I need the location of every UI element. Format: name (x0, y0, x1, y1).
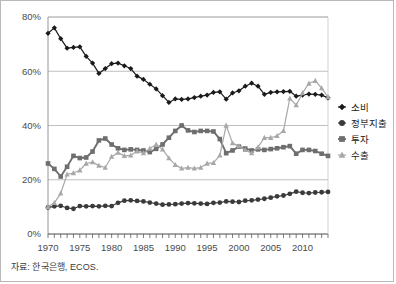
data-point (313, 190, 318, 195)
series-1 (46, 189, 331, 211)
x-tick-label-1990: 1990 (165, 242, 186, 253)
x-tick-label-1980: 1980 (101, 242, 122, 253)
x-tick-label-1970: 1970 (37, 242, 58, 253)
data-point (84, 204, 89, 209)
data-point (262, 148, 267, 153)
data-point (115, 61, 120, 66)
data-point (249, 198, 254, 203)
data-point (160, 202, 165, 207)
data-point (287, 95, 292, 100)
data-point (313, 92, 318, 97)
data-point (154, 147, 159, 152)
data-point (46, 161, 51, 166)
data-point (256, 197, 261, 202)
data-point (65, 164, 70, 169)
legend-item-1[interactable]: 정부지출 (338, 118, 387, 129)
data-point (211, 129, 216, 134)
x-tick-label-2010: 2010 (292, 242, 313, 253)
data-point (128, 198, 133, 203)
legend-label: 수출 (351, 150, 369, 161)
data-point (287, 191, 292, 196)
y-tick-label-60: 60% (22, 66, 42, 77)
data-point (71, 45, 76, 50)
data-point (204, 93, 209, 98)
chart-legend: 소비정부지출투자수출 (338, 102, 387, 161)
data-point (307, 191, 312, 196)
data-point (109, 204, 114, 209)
data-point (294, 189, 299, 194)
data-point (205, 201, 210, 206)
data-point (230, 140, 235, 145)
data-point (154, 142, 159, 147)
source-note: 자료: 한국은행, ECOS. (11, 260, 99, 273)
data-point (281, 128, 286, 133)
x-tick-label-2005: 2005 (260, 242, 281, 253)
data-point (147, 146, 152, 151)
data-point (103, 136, 108, 141)
data-point (173, 129, 178, 134)
data-point (52, 167, 57, 172)
y-tick-label-80: 80% (22, 11, 42, 22)
data-point (103, 203, 108, 208)
line-chart: 0%20%40%60%80% 1970197519801985199019952… (1, 1, 395, 261)
data-point (90, 159, 95, 164)
data-point (77, 204, 82, 209)
figure-container: 0%20%40%60%80% 1970197519801985199019952… (0, 0, 394, 282)
data-point (217, 200, 222, 205)
data-point (300, 148, 305, 153)
series-0 (45, 25, 330, 105)
data-point (313, 149, 318, 154)
data-point (319, 93, 324, 98)
data-point (90, 204, 95, 209)
data-point (192, 95, 197, 100)
data-point (275, 194, 280, 199)
data-point (185, 96, 190, 101)
series-2 (46, 123, 331, 179)
data-point (294, 151, 299, 156)
data-point (122, 63, 127, 68)
data-point (147, 200, 152, 205)
data-point (198, 201, 203, 206)
data-point (116, 200, 121, 205)
x-tick-label-1985: 1985 (133, 242, 154, 253)
data-point (122, 148, 127, 153)
legend-marker-icon (339, 104, 346, 111)
data-point (109, 142, 114, 147)
data-point (268, 195, 273, 200)
data-point (274, 89, 279, 94)
data-point (141, 199, 146, 204)
data-point (71, 206, 76, 211)
data-point (109, 154, 114, 159)
series-line (48, 192, 328, 209)
legend-item-2[interactable]: 투자 (338, 134, 369, 145)
data-point (154, 201, 159, 206)
data-point (268, 90, 273, 95)
data-point (300, 190, 305, 195)
x-tick-label-1995: 1995 (197, 242, 218, 253)
y-tick-label-40: 40% (22, 120, 42, 131)
y-tick-label-0: 0% (27, 228, 41, 239)
data-point (179, 123, 184, 128)
data-series-group (45, 25, 330, 211)
legend-item-0[interactable]: 소비 (338, 102, 369, 113)
legend-item-3[interactable]: 수출 (338, 150, 369, 161)
x-axis-tick-labels: 197019751980198519901995200020052010 (37, 242, 313, 253)
data-point (186, 128, 191, 133)
data-point (307, 148, 312, 153)
data-point (58, 203, 63, 208)
data-point (268, 147, 273, 152)
data-point (319, 190, 324, 195)
data-point (160, 142, 165, 147)
legend-label: 정부지출 (351, 118, 387, 129)
data-point (97, 138, 102, 143)
data-point (205, 129, 210, 134)
data-point (198, 129, 203, 134)
y-axis-tick-labels: 0%20%40%60%80% (22, 11, 42, 239)
data-point (192, 201, 197, 206)
data-point (288, 144, 293, 149)
data-point (84, 155, 89, 160)
data-point (58, 190, 63, 195)
data-point (326, 190, 331, 195)
data-point (326, 154, 331, 159)
data-point (281, 145, 286, 150)
